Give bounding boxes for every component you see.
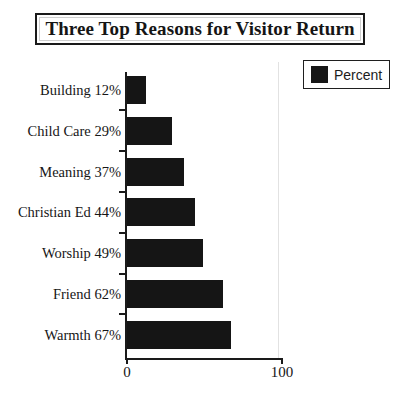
category-label: Friend 62%	[53, 286, 121, 302]
category-label: Christian Ed 44%	[18, 204, 121, 220]
gridline-vertical	[278, 62, 279, 358]
bar	[127, 158, 184, 186]
bar	[127, 321, 231, 349]
y-axis-tick	[119, 232, 126, 234]
y-axis-tick	[119, 109, 126, 111]
x-axis-tick-label: 0	[123, 364, 131, 381]
y-axis-tick	[119, 313, 126, 315]
bar	[127, 239, 203, 267]
category-label: Meaning 37%	[39, 164, 121, 180]
category-label: Worship 49%	[42, 245, 121, 261]
category-label: Child Care 29%	[28, 123, 121, 139]
x-axis-tick-label: 100	[271, 364, 294, 381]
x-axis-line	[126, 358, 282, 360]
y-axis-tick	[119, 191, 126, 193]
chart-plot-area: Building 12%Child Care 29%Meaning 37%Chr…	[0, 0, 402, 395]
bar	[127, 198, 195, 226]
y-axis-tick	[119, 150, 126, 152]
bar	[127, 76, 146, 104]
y-axis-tick	[119, 273, 126, 275]
bar	[127, 280, 223, 308]
category-label: Warmth 67%	[44, 327, 121, 343]
category-label: Building 12%	[40, 82, 121, 98]
bar	[127, 117, 172, 145]
